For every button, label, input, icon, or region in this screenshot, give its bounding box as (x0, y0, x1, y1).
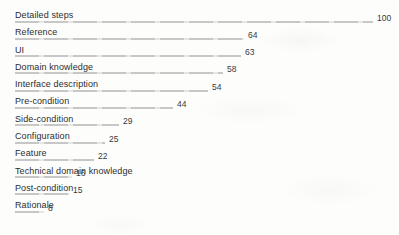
value-label: 64 (248, 31, 257, 40)
category-label: Technical domain knowledge (15, 166, 133, 176)
bar (15, 159, 94, 161)
bar (15, 72, 223, 74)
category-label: Configuration (15, 131, 70, 141)
category-label: Feature (15, 148, 47, 158)
bar (15, 193, 69, 195)
category-label: Post-condition (15, 183, 73, 193)
value-label: 29 (123, 117, 132, 126)
category-label: Side-condition (15, 114, 73, 124)
value-label: 22 (98, 152, 107, 161)
category-label: Reference (15, 27, 57, 37)
category-label: Domain knowledge (15, 62, 93, 72)
bar-row: Feature 22 (15, 148, 395, 165)
bar-row: Configuration 25 (15, 131, 395, 148)
scanned-page: Detailed steps 100 Reference 64 UI 63 Do… (0, 0, 399, 235)
bar-row: Rationale 8 (15, 200, 395, 217)
category-label: Interface description (15, 79, 98, 89)
bar-row: Side-condition 29 (15, 114, 395, 131)
bar-row: Pre-condition 44 (15, 96, 395, 113)
value-label: 8 (48, 204, 53, 213)
bar (15, 124, 119, 126)
category-label: Detailed steps (15, 10, 73, 20)
value-label: 25 (109, 135, 118, 144)
bar-row: Reference 64 (15, 27, 395, 44)
value-label: 63 (245, 48, 254, 57)
value-label: 15 (73, 186, 82, 195)
bar-row: Technical domain knowledge 16 (15, 166, 395, 183)
bar-row: Detailed steps 100 (15, 10, 395, 27)
value-label: 44 (177, 100, 186, 109)
bar (15, 176, 72, 178)
category-label: UI (15, 45, 24, 55)
value-label: 54 (212, 83, 221, 92)
bar (15, 55, 241, 57)
bar-row: UI 63 (15, 45, 395, 62)
value-label: 16 (76, 169, 85, 178)
bar (15, 107, 173, 109)
value-label: 100 (377, 14, 391, 23)
bar-chart: Detailed steps 100 Reference 64 UI 63 Do… (15, 10, 395, 218)
bar (15, 21, 373, 23)
bar (15, 38, 244, 40)
bar (15, 90, 208, 92)
bar (15, 211, 44, 213)
category-label: Pre-condition (15, 96, 69, 106)
bar-row: Interface description 54 (15, 79, 395, 96)
value-label: 58 (227, 65, 236, 74)
bar-row: Domain knowledge 58 (15, 62, 395, 79)
bar-row: Post-condition 15 (15, 183, 395, 200)
bar (15, 142, 105, 144)
